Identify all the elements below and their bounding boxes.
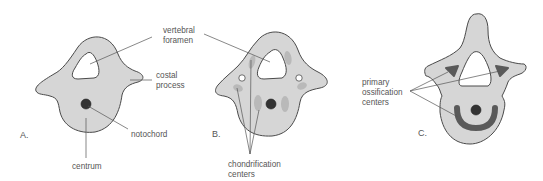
label-vertebral-foramen-line1: vertebral xyxy=(163,26,195,35)
label-costal-process-line2: process xyxy=(156,81,185,90)
panel-a: A. vertebral foramen costal process noto… xyxy=(20,26,195,171)
label-centrum: centrum xyxy=(72,162,102,171)
vertebra-a-body xyxy=(36,37,143,132)
panel-label-b: B. xyxy=(212,129,221,139)
vertebra-development-diagram: A. vertebral foramen costal process noto… xyxy=(0,0,543,181)
transverse-foramen-right xyxy=(296,75,302,81)
chondrification-center xyxy=(254,95,262,111)
vertebra-b-body xyxy=(216,32,328,136)
chondrification-center xyxy=(281,96,289,112)
label-chondrification-centers-line2: centers xyxy=(228,170,255,179)
panel-b: B. chondrification centers xyxy=(204,32,327,179)
label-primary-ossification-line2: ossification xyxy=(362,88,403,97)
label-vertebral-foramen-line2: foramen xyxy=(163,36,193,45)
panel-c: C. primary ossification centers xyxy=(362,14,526,144)
label-primary-ossification-line1: primary xyxy=(362,78,390,87)
label-chondrification-centers-line1: chondrification xyxy=(228,160,281,169)
transverse-foramen-left xyxy=(239,75,245,81)
label-notochord: notochord xyxy=(131,130,168,139)
label-primary-ossification-line3: centers xyxy=(362,98,389,107)
panel-label-c: C. xyxy=(418,128,427,138)
panel-label-a: A. xyxy=(20,130,29,140)
notochord-a xyxy=(81,99,91,109)
notochord-c xyxy=(471,105,481,115)
label-costal-process-line1: costal xyxy=(156,71,178,80)
notochord-b xyxy=(266,99,276,109)
